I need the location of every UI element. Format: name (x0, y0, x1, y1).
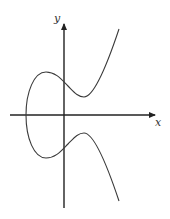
elliptic-curve-diagram: x y (0, 0, 170, 219)
curve-lower-branch (26, 115, 119, 201)
x-axis-label: x (155, 116, 162, 129)
y-axis-label: y (53, 12, 61, 25)
curve-upper-branch (26, 29, 119, 115)
